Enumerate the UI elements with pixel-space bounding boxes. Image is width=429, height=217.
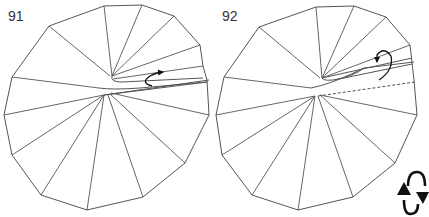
turn-over-icon: [396, 164, 429, 217]
paper-outline: [216, 6, 417, 210]
step-91-diagram: 91: [0, 0, 215, 217]
step-91-figure: [0, 0, 215, 217]
paper-outline: [4, 5, 209, 210]
